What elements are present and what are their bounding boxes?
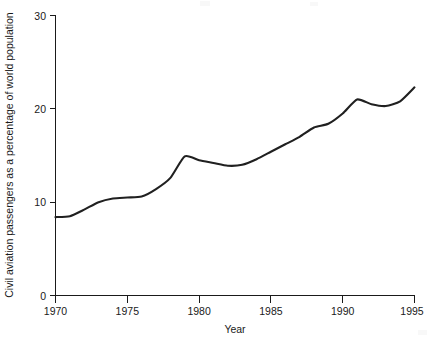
x-tick-label-1975: 1975 bbox=[116, 305, 140, 317]
x-tick-label-1990: 1990 bbox=[331, 305, 355, 317]
x-tick-label-1980: 1980 bbox=[187, 305, 211, 317]
chart-figure: 0 10 20 30 1970 1975 1980 1985 1990 1995… bbox=[0, 0, 430, 341]
y-tick-label-0: 0 bbox=[40, 290, 46, 302]
x-tick-label-1995: 1995 bbox=[400, 305, 424, 317]
data-series-line bbox=[56, 87, 415, 217]
y-axis-ticks bbox=[50, 16, 56, 296]
x-tick-label-1985: 1985 bbox=[259, 305, 283, 317]
y-tick-label-20: 20 bbox=[34, 103, 46, 115]
y-tick-label-30: 30 bbox=[34, 10, 46, 22]
x-axis-ticks bbox=[56, 296, 415, 304]
y-tick-label-10: 10 bbox=[34, 196, 46, 208]
y-axis-title: Civil aviation passengers as a percentag… bbox=[3, 12, 15, 298]
x-tick-label-1970: 1970 bbox=[44, 305, 68, 317]
x-axis-title: Year bbox=[224, 323, 246, 335]
